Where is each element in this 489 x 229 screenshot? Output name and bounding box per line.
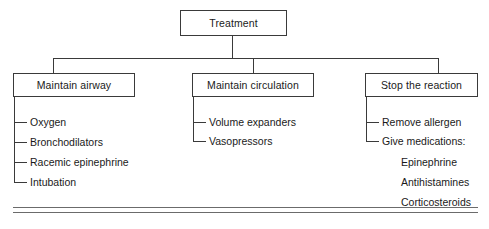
list-tick [14,122,27,123]
node-maintain-circulation: Maintain circulation [192,73,314,97]
connector-root-stem [232,36,233,58]
list-item: Racemic epinephrine [30,157,129,168]
node-treatment-label: Treatment [209,18,257,29]
node-maintain-circulation-label: Maintain circulation [207,80,299,91]
list-item: Vasopressors [209,136,272,147]
list-spine-maintain-circulation [193,97,194,141]
list-item: Volume expanders [209,117,296,128]
list-item: Oxygen [30,117,66,128]
list-item: Intubation [30,177,76,188]
list-tick [366,122,379,123]
node-stop-the-reaction: Stop the reaction [365,73,478,97]
connector-drop-stop-the-reaction [438,58,439,73]
footer-rule-bottom [13,212,478,213]
list-item: Remove allergen [382,117,461,128]
connector-drop-maintain-airway [53,58,54,73]
list-tick [366,141,379,142]
list-spine-stop-the-reaction [366,97,367,141]
list-tick [14,142,27,143]
node-stop-the-reaction-label: Stop the reaction [381,80,462,91]
list-item: Bronchodilators [30,137,103,148]
list-spine-maintain-airway [14,97,15,182]
connector-drop-maintain-circulation [253,58,254,73]
connector-horizontal-bus [53,58,439,59]
footer-rule-top [13,207,478,208]
sub-list-item: Corticosteroids [401,197,471,208]
list-tick [193,141,206,142]
list-tick [14,182,27,183]
node-treatment: Treatment [180,10,287,36]
sub-list-item: Epinephrine [401,157,457,168]
list-item: Give medications: [382,136,465,147]
sub-list-item: Antihistamines [401,177,469,188]
node-maintain-airway: Maintain airway [13,73,135,97]
treatment-flowchart: Treatment Maintain airway Oxygen Broncho… [0,0,489,229]
list-tick [193,122,206,123]
list-tick [14,162,27,163]
node-maintain-airway-label: Maintain airway [37,80,111,91]
